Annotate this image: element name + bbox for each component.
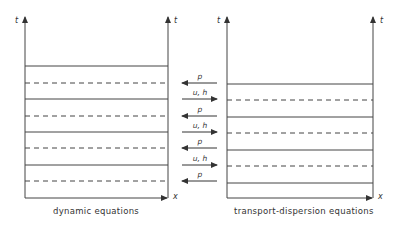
left-panel-t-label-left: t	[15, 17, 18, 25]
left-panel-t-label-right: t	[174, 17, 177, 25]
exchange-arrow-label: u, h	[180, 155, 220, 163]
right-panel-lines	[227, 84, 373, 183]
exchange-arrow-label: p	[180, 106, 220, 114]
exchange-arrow-label: p	[180, 171, 220, 179]
left-panel-lines	[25, 66, 168, 181]
right-panel-x-label: x	[378, 193, 383, 201]
right-panel-caption: transport-dispersion equations	[234, 206, 374, 216]
left-panel	[25, 17, 168, 198]
exchange-arrow-label: u, h	[180, 122, 220, 130]
exchange-arrow-label: u, h	[180, 89, 220, 97]
exchange-arrow-label: p	[180, 138, 220, 146]
right-panel	[227, 17, 373, 198]
left-panel-caption: dynamic equations	[53, 206, 139, 216]
left-panel-x-label: x	[173, 193, 178, 201]
right-panel-t-label-left: t	[217, 17, 220, 25]
exchange-arrows	[182, 83, 217, 181]
right-panel-t-label-right: t	[380, 17, 383, 25]
exchange-arrow-label: p	[180, 73, 220, 81]
